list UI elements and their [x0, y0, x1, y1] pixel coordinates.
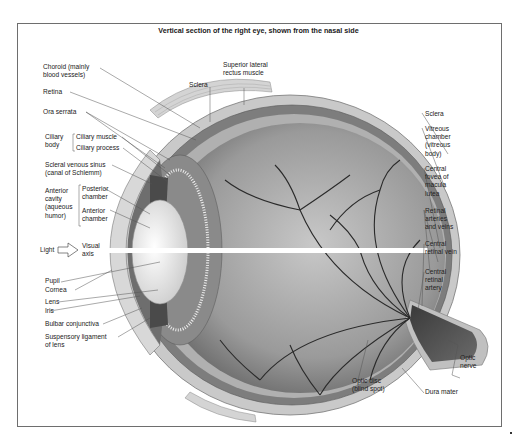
label-sclera-right: Sclera [425, 110, 444, 118]
label-ciliary-body: Ciliary body [45, 133, 63, 149]
label-scleral-venous-sinus: Scleral venous sinus (canal of Schlemm) [45, 161, 105, 177]
label-ciliary-process: Ciliary process [76, 144, 119, 152]
corner-mark [510, 432, 512, 434]
label-visual-axis: Visual axis [82, 242, 100, 258]
label-optic-nerve: Optic nerve [460, 354, 477, 370]
label-central-fovea: Central fovea of macula lutea [425, 165, 448, 198]
label-optic-disc: Optic disc (blind spot) [352, 377, 385, 393]
label-ciliary-muscle: Ciliary muscle [76, 133, 117, 141]
label-dura-mater: Dura mater [425, 388, 458, 396]
label-vitreous-chamber: Vitreous chamber (vitreous body) [425, 125, 451, 158]
visual-axis-line [108, 248, 428, 253]
label-anterior-cavity: Anterior cavity (aqueous humor) [45, 187, 73, 220]
label-iris: Iris [45, 307, 54, 315]
label-suspensory-ligament: Suspensory ligament of lens [45, 333, 107, 349]
label-ora-serrata: Ora serrata [43, 108, 76, 116]
label-choroid: Choroid (mainly blood vessels) [43, 63, 89, 79]
label-anterior-chamber: Anterior chamber [82, 207, 108, 223]
label-central-retinal-vein: Central retinal vein [425, 240, 457, 256]
label-bulbar-conjunctiva: Bulbar conjunctiva [45, 320, 99, 328]
label-retina: Retina [43, 88, 62, 96]
label-lens: Lens [45, 298, 59, 306]
label-sclera-top: Sclera [189, 81, 208, 89]
label-cornea: Cornea [45, 286, 67, 294]
label-retinal-arteries-veins: Retinal arteries and veins [425, 207, 453, 232]
label-posterior-chamber: Posterior chamber [82, 185, 108, 201]
label-superior-lateral-rectus: Superior lateral rectus muscle [223, 61, 268, 77]
label-light: Light [40, 246, 54, 254]
light-arrow-icon [58, 243, 78, 257]
label-pupil: Pupil [45, 277, 60, 285]
label-central-retinal-artery: Central retinal artery [425, 268, 446, 293]
